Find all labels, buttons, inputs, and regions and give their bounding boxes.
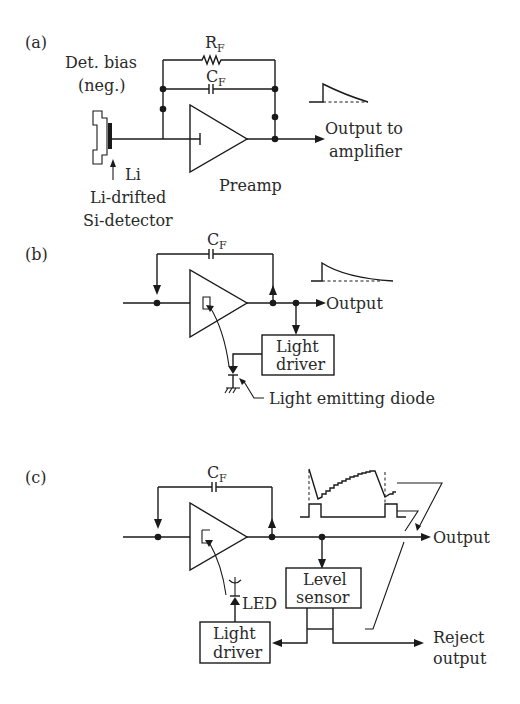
cf-label-sub: F — [219, 472, 227, 485]
feedback-resistor-rf — [163, 56, 275, 64]
panel-b-label: (b) — [25, 245, 48, 264]
output-label: Output — [326, 294, 383, 313]
output-label-line1: Output to — [325, 119, 403, 138]
preamp-pulse-waveform — [309, 84, 368, 102]
det-bias-label-line2: (neg.) — [78, 76, 126, 95]
cf-label: C — [207, 463, 219, 482]
led-icon — [225, 354, 262, 393]
cf-label: C — [206, 67, 218, 86]
detector-label-line2: Si-detector — [83, 211, 173, 230]
detector-label-line1: Li-drifted — [90, 188, 166, 207]
cf-label-sub: F — [219, 239, 227, 252]
panel-a: (a) Det. bias (neg.) Li Li-drifted Si-de… — [25, 33, 403, 230]
output-label-line2: amplifier — [329, 142, 402, 161]
light-driver-label-line2: driver — [276, 355, 326, 374]
led-label: LED — [242, 594, 277, 613]
det-bias-label-line1: Det. bias — [65, 53, 137, 72]
light-driver-label-line1: Light — [276, 337, 319, 356]
output-label: Output — [433, 528, 490, 547]
preamp-triangle — [190, 270, 247, 337]
light-driver-label-line2: driver — [213, 643, 263, 662]
li-arrow-icon — [110, 159, 116, 180]
si-detector-icon — [93, 111, 112, 164]
panel-c: (c) C F Output — [25, 463, 490, 668]
light-driver-label-line1: Light — [213, 624, 256, 643]
led-icon — [229, 577, 241, 622]
reject-label-line1: Reject — [433, 628, 485, 647]
cf-label-sub: F — [218, 76, 226, 89]
output-pulse-waveform — [311, 263, 393, 281]
rf-label-sub: F — [217, 42, 225, 55]
reject-label-line2: output — [433, 649, 487, 668]
led-label: Light emitting diode — [269, 389, 435, 408]
preamp-triangle — [190, 503, 247, 570]
panel-c-label: (c) — [25, 468, 46, 487]
level-sensor-label-line2: sensor — [296, 588, 350, 607]
panel-a-label: (a) — [25, 33, 47, 52]
level-sensor-label-line1: Level — [303, 570, 347, 589]
panel-b: (b) C F Output Light d — [25, 230, 435, 408]
li-label: Li — [125, 165, 141, 184]
cf-label: C — [207, 230, 219, 249]
preamp-label: Preamp — [219, 176, 282, 195]
circuit-diagram: (a) Det. bias (neg.) Li Li-drifted Si-de… — [0, 0, 520, 704]
